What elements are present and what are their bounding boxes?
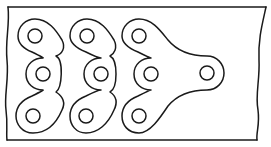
pin-hole-2-top	[80, 29, 94, 43]
pin-hole-2-bottom	[79, 109, 93, 123]
frame-right-break-edge	[257, 7, 266, 140]
chain-diagram	[0, 0, 271, 147]
pin-hole-3-top	[132, 29, 146, 43]
chain-drawing	[0, 0, 271, 147]
pin-hole-3-middle	[144, 67, 158, 81]
pin-hole-1-top	[28, 29, 42, 43]
pin-hole-3-bottom	[132, 109, 146, 123]
pin-hole-1-middle	[36, 67, 50, 81]
pin-hole-end	[200, 66, 214, 80]
pin-hole-1-bottom	[26, 109, 40, 123]
frame-left-break-edge	[6, 7, 9, 140]
pin-hole-2-middle	[94, 67, 108, 81]
